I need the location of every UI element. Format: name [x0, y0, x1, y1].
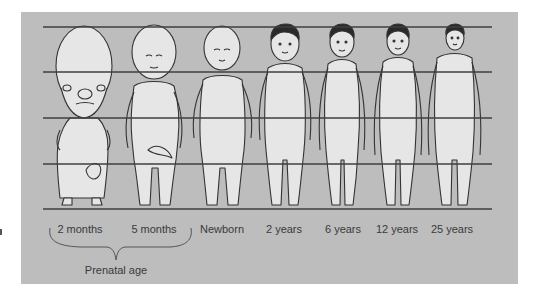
stage-label-5-months: 5 months [131, 223, 176, 235]
prenatal-age-label: Prenatal age [85, 264, 147, 276]
stage-label-6-years: 6 years [325, 223, 361, 235]
stage-label-2-months: 2 months [57, 223, 102, 235]
figure-5-months [126, 25, 182, 205]
figure-2-years [259, 24, 310, 205]
figure-6-years [319, 24, 364, 205]
figure-newborn [193, 26, 251, 205]
figure-12-years [374, 24, 421, 205]
body-proportions-illustration [0, 0, 541, 299]
stage-label-12-years: 12 years [376, 223, 418, 235]
figure-25-years [428, 24, 480, 205]
stage-label-newborn: Newborn [200, 223, 244, 235]
figure-2-months [56, 26, 112, 205]
stage-label-25-years: 25 years [431, 223, 473, 235]
stage-label-2-years: 2 years [266, 223, 302, 235]
